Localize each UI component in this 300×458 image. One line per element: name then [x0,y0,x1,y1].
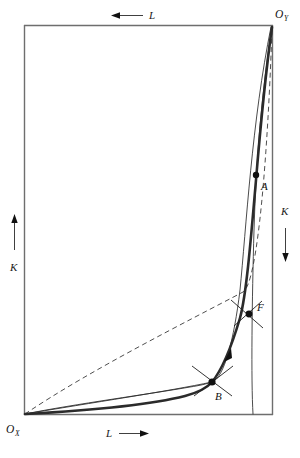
axis-arrow-right-head [282,253,288,262]
axis-label-left-K-text: K [9,261,18,273]
axis-arrow-left-head [11,214,17,223]
edgeworth-box-figure: A F B O Y O X L L K [0,0,300,458]
dashed-ray-group [25,28,272,414]
isoquant-through-F-group [25,27,271,414]
diagram-canvas: A F B O Y O X L L K [0,0,300,458]
axis-label-right-K-text: K [280,205,289,217]
point-label-B: B [215,390,222,402]
origin-oy-subscript: Y [284,14,289,23]
axis-label-bottom-L-text: L [105,427,112,439]
axis-arrow-top-head [111,12,120,19]
origin-label-ox: O X [6,423,20,438]
axis-label-left-K: K [9,214,18,273]
isoquant-through-A [252,27,272,414]
origin-ox-letter: O [6,423,15,435]
point-label-A: A [260,180,268,192]
axis-label-top-L-text: L [148,9,155,21]
diagonal-dashed-ray [25,28,272,414]
contract-curve [25,27,272,414]
point-marker-F [246,311,253,318]
isoquant-through-A-group [252,27,272,414]
point-marker-B [208,378,215,385]
contract-curve-group [25,27,272,414]
isoquant-through-F [25,27,271,414]
origin-label-oy: O Y [275,8,289,23]
origin-oy-letter: O [275,8,284,20]
point-marker-A [253,172,259,178]
origin-ox-subscript: X [14,429,20,438]
axis-label-right-K: K [280,205,289,262]
axis-arrow-bottom-head [140,430,149,437]
axis-label-top-L: L [111,9,155,21]
point-label-F: F [256,301,264,313]
axis-label-bottom-L: L [105,427,149,439]
box-frame [24,25,273,415]
